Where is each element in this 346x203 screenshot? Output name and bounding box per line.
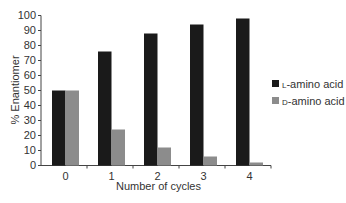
bar-l-2 [144,34,158,166]
y-tick-label: 20 [6,130,36,141]
legend-item-l-amino-acid: l-amino acid [272,75,345,92]
y-tick-label: 100 [6,10,36,21]
legend-swatch-l [272,80,279,87]
bar-d-3 [204,157,218,166]
bar-l-0 [52,91,66,166]
legend-label-l: l-amino acid [282,78,343,90]
y-tick-label: 10 [6,145,36,156]
y-axis-label: % Enantiomer [9,50,21,130]
legend-label-d: d-amino acid [282,95,345,107]
bar-d-0 [66,91,80,166]
bar-l-1 [98,52,112,166]
legend-item-d-amino-acid: d-amino acid [272,92,345,109]
bar-d-2 [158,148,172,166]
x-tick-label: 4 [240,171,260,182]
y-tick-label: 0 [6,160,36,171]
bar-l-3 [190,25,204,166]
bar-d-1 [112,130,126,166]
y-tick-label: 90 [6,25,36,36]
bar-d-4 [250,163,264,166]
y-tick-label: 80 [6,40,36,51]
bar-l-4 [236,19,250,166]
x-axis-label: Number of cycles [116,180,201,192]
x-tick-label: 0 [56,171,76,182]
legend: l-amino acid d-amino acid [272,75,345,109]
legend-swatch-d [272,97,279,104]
bar-chart: 0102030405060708090100 01234 % Enantiome… [0,0,346,203]
